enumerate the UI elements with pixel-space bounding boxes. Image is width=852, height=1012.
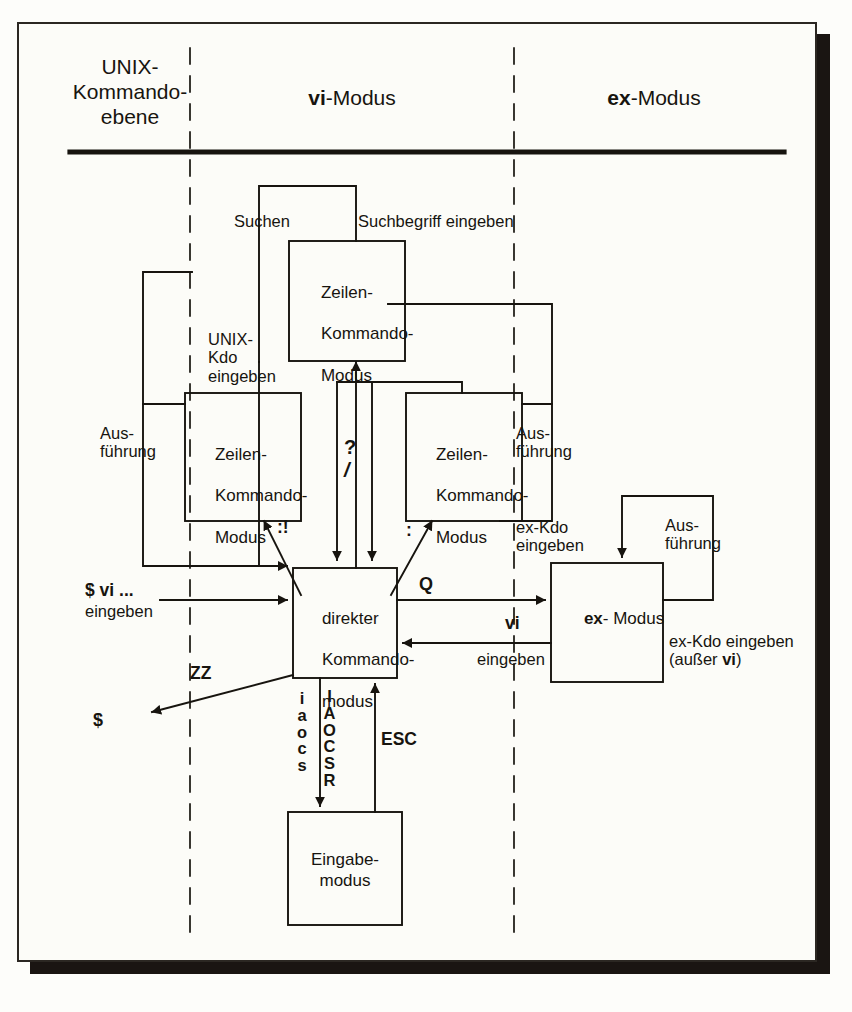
ex-line-mode-l2: Kommando- — [436, 486, 529, 505]
label-slash: / — [344, 459, 350, 481]
unix-line-mode-l1: Zeilen- — [215, 445, 267, 464]
label-ausfuehrung-mid: Aus- führung — [516, 424, 572, 461]
label-suchbegriff-eingeben: Suchbegriff eingeben — [358, 212, 514, 230]
search-line-mode-l1: Zeilen- — [321, 283, 373, 302]
header-ex-rest: -Modus — [631, 86, 701, 109]
box-label-input-mode: Eingabe- modus — [288, 850, 402, 891]
label-colon-bang: :! — [277, 518, 289, 538]
edge-zz — [152, 675, 293, 712]
input-mode-l2: modus — [319, 871, 370, 890]
box-label-ex-mode: ex- Modus — [565, 588, 664, 650]
box-label-ex-line-mode: Zeilen- Kommando- Modus — [417, 424, 529, 569]
ex-kdo-right-l2-pre: (außer — [669, 650, 722, 668]
box-label-search-line-mode: Zeilen- Kommando- Modus — [302, 262, 414, 407]
ex-kdo-right-l1: ex-Kdo eingeben — [669, 632, 794, 650]
direct-mode-l1: direkter — [322, 609, 379, 628]
box-label-unix-line-mode: Zeilen- Kommando- Modus — [196, 424, 308, 569]
header-vi-rest: -Modus — [326, 86, 396, 109]
ex-mode-bold: ex — [584, 609, 603, 628]
box-label-direct-command-mode: direkter Kommando- modus — [303, 588, 415, 733]
edge-unix-kdo-eingeben — [143, 272, 192, 404]
search-line-mode-l3: Modus — [321, 366, 372, 385]
header-vi-modus: vi-Modus — [190, 86, 514, 111]
label-insert-keys-lower: i a o c s — [297, 690, 307, 774]
header-unix-line1: UNIX- — [101, 55, 158, 78]
label-zz: ZZ — [190, 664, 211, 684]
ex-kdo-right-l2-post: ) — [736, 650, 742, 668]
label-dollar-vi-eingeben: eingeben — [85, 602, 153, 620]
ex-line-mode-l1: Zeilen- — [436, 445, 488, 464]
label-q: Q — [419, 574, 433, 594]
label-ex-kdo-eingeben-right: ex-Kdo eingeben(außer vi) — [669, 632, 794, 669]
header-unix-kommandoebene: UNIX- Kommando- ebene — [70, 55, 190, 129]
label-ausfuehrung-right: Aus- führung — [665, 516, 721, 553]
ex-mode-rest: - Modus — [603, 609, 664, 628]
label-esc: ESC — [381, 730, 417, 750]
input-mode-l1: Eingabe- — [311, 850, 379, 869]
diagram-page: UNIX- Kommando- ebene vi-Modus ex-Modus … — [0, 0, 852, 1012]
direct-mode-l2: Kommando- — [322, 650, 415, 669]
label-dollar-prompt: $ — [93, 710, 103, 730]
header-unix-line2: Kommando- — [73, 80, 187, 103]
header-vi-bold: vi — [308, 86, 326, 109]
header-ex-bold: ex — [607, 86, 630, 109]
ex-line-mode-l3: Modus — [436, 528, 487, 547]
label-ex-kdo-eingeben-mid: ex-Kdo eingeben — [516, 518, 584, 555]
label-ausfuehrung-left: Aus- führung — [100, 424, 156, 461]
label-eingeben: eingeben — [477, 650, 545, 668]
unix-line-mode-l2: Kommando- — [215, 486, 308, 505]
header-unix-line3: ebene — [101, 105, 159, 128]
label-insert-keys-upper: I A O C S R — [323, 688, 336, 789]
header-ex-modus: ex-Modus — [514, 86, 794, 111]
label-unix-kdo-eingeben: UNIX- Kdo eingeben — [208, 330, 276, 385]
label-colon: : — [406, 521, 412, 541]
label-suchen: Suchen — [234, 212, 290, 230]
search-line-mode-l2: Kommando- — [321, 324, 414, 343]
label-vi-key: vi — [505, 614, 520, 634]
label-question-mark: ? — [344, 436, 356, 458]
ex-kdo-right-l2-bold: vi — [722, 650, 736, 668]
label-dollar-vi: $ vi ... — [85, 581, 134, 601]
unix-line-mode-l3: Modus — [215, 528, 266, 547]
